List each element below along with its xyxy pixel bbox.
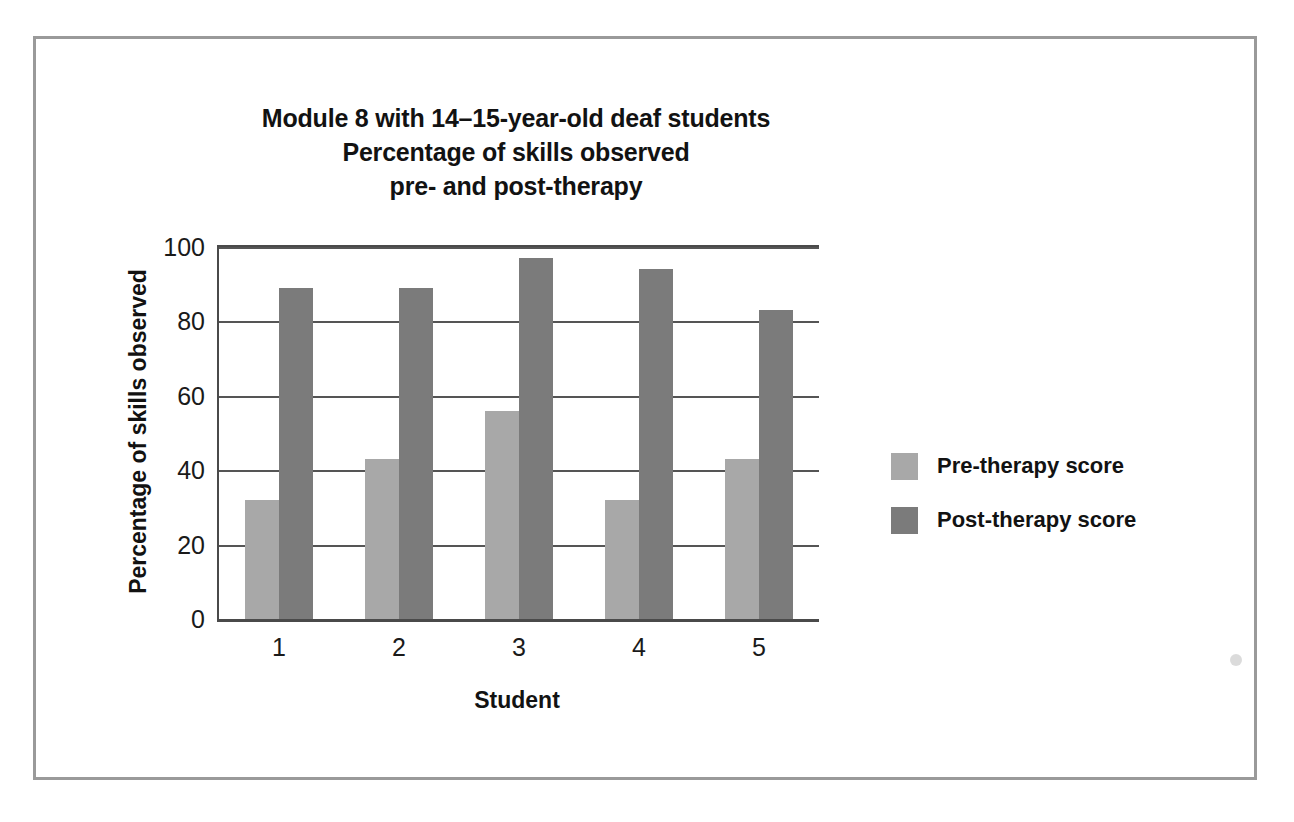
plot-area: 02040608010012345 <box>217 245 819 622</box>
y-tick-label: 80 <box>177 307 205 336</box>
legend-item-pre[interactable]: Pre-therapy score <box>891 439 1136 493</box>
legend-label-pre: Pre-therapy score <box>937 453 1124 479</box>
bar-group <box>365 247 432 619</box>
bar-group <box>485 247 552 619</box>
x-axis-title: Student <box>217 687 817 714</box>
x-tick-label: 1 <box>272 633 286 662</box>
y-axis-title: Percentage of skills observed <box>120 245 156 617</box>
bar-pre-therapy-2[interactable] <box>365 459 399 619</box>
x-tick-label: 2 <box>392 633 406 662</box>
legend-swatch-post <box>891 507 918 534</box>
chart-legend: Pre-therapy score Post-therapy score <box>891 439 1136 547</box>
y-tick-label: 60 <box>177 381 205 410</box>
legend-swatch-pre <box>891 453 918 480</box>
legend-item-post[interactable]: Post-therapy score <box>891 493 1136 547</box>
chart-title-line-2: Percentage of skills observed <box>36 135 996 169</box>
bar-post-therapy-2[interactable] <box>399 288 433 619</box>
y-tick-label: 100 <box>163 233 205 262</box>
x-tick-label: 4 <box>632 633 646 662</box>
x-tick-label: 3 <box>512 633 526 662</box>
bar-pre-therapy-5[interactable] <box>725 459 759 619</box>
scan-artifact-speck <box>1230 654 1242 666</box>
chart-title-line-1: Module 8 with 14–15-year-old deaf studen… <box>36 101 996 135</box>
bar-group <box>725 247 792 619</box>
bar-pre-therapy-4[interactable] <box>605 500 639 619</box>
bar-post-therapy-1[interactable] <box>279 288 313 619</box>
bar-pre-therapy-1[interactable] <box>245 500 279 619</box>
bar-post-therapy-5[interactable] <box>759 310 793 619</box>
chart-title-line-3: pre- and post-therapy <box>36 169 996 203</box>
legend-label-post: Post-therapy score <box>937 507 1136 533</box>
y-tick-label: 20 <box>177 530 205 559</box>
bar-post-therapy-4[interactable] <box>639 269 673 619</box>
bar-post-therapy-3[interactable] <box>519 258 553 619</box>
bar-group <box>245 247 312 619</box>
y-tick-label: 40 <box>177 456 205 485</box>
chart-title: Module 8 with 14–15-year-old deaf studen… <box>36 101 996 203</box>
figure-border: Module 8 with 14–15-year-old deaf studen… <box>33 36 1257 780</box>
y-axis-title-text: Percentage of skills observed <box>125 269 152 594</box>
x-tick-label: 5 <box>752 633 766 662</box>
bar-group <box>605 247 672 619</box>
y-tick-label: 0 <box>191 605 205 634</box>
bar-pre-therapy-3[interactable] <box>485 411 519 619</box>
